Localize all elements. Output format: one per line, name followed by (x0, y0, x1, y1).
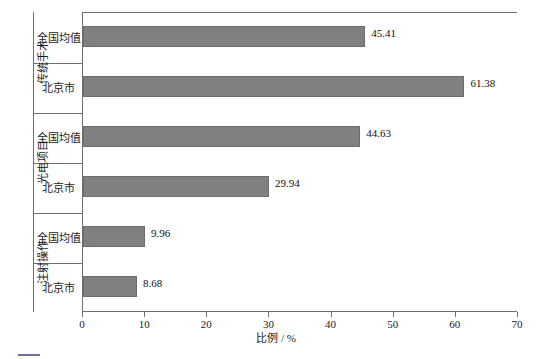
bar-value-label: 29.94 (275, 177, 300, 189)
x-tick (144, 312, 145, 317)
group-label-text: 光电项目 (34, 140, 50, 184)
caption-rule (18, 354, 40, 356)
chart-row: 全国均值9.96 (83, 213, 517, 263)
x-tick (268, 312, 269, 317)
bar-value-label: 45.41 (371, 27, 396, 39)
x-tick (82, 312, 83, 317)
bar (83, 176, 269, 197)
group-label: 注射操作 (33, 212, 51, 312)
x-tick (331, 312, 332, 317)
bar (83, 26, 365, 47)
group-label: 传统手术 (33, 12, 51, 112)
chart-row: 北京市8.68 (83, 263, 517, 313)
x-tick (393, 312, 394, 317)
bar (83, 226, 145, 247)
bar (83, 126, 360, 147)
group-label-text: 注射操作 (34, 240, 50, 284)
chart-row: 全国均值44.63 (83, 113, 517, 163)
x-tick (206, 312, 207, 317)
plot-area: 全国均值45.41北京市61.38全国均值44.63北京市29.94全国均值9.… (82, 12, 517, 312)
group-label: 光电项目 (33, 112, 51, 212)
x-axis-title: 比例 / % (0, 329, 552, 345)
x-axis-ticks: 010203040506070 (82, 312, 517, 318)
x-tick (455, 312, 456, 317)
chart-row: 北京市61.38 (83, 63, 517, 113)
figure-caption (0, 350, 552, 359)
x-tick (517, 312, 518, 317)
bar-value-label: 44.63 (366, 127, 391, 139)
chart-row: 北京市29.94 (83, 163, 517, 213)
chart-row: 全国均值45.41 (83, 13, 517, 63)
group-label-text: 传统手术 (34, 40, 50, 84)
bar-value-label: 61.38 (470, 77, 495, 89)
horizontal-bar-chart: 全国均值45.41北京市61.38全国均值44.63北京市29.94全国均值9.… (0, 0, 552, 359)
bar (83, 276, 137, 297)
bar (83, 76, 464, 97)
bar-value-label: 8.68 (143, 277, 162, 289)
bar-value-label: 9.96 (151, 227, 170, 239)
